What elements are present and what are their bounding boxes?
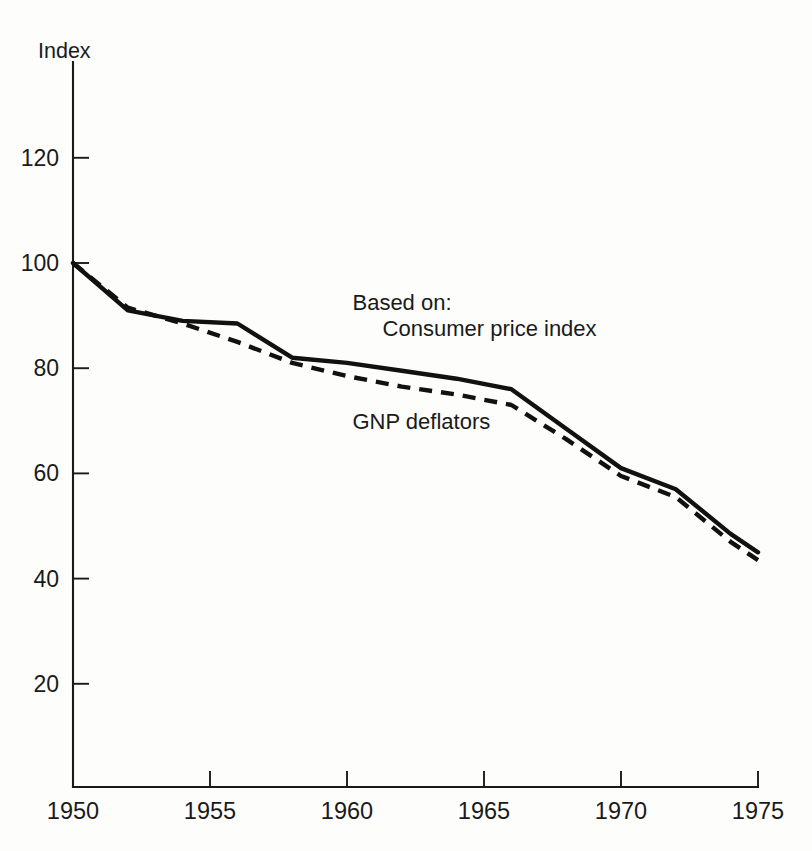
x-tick-label: 1955 [184,798,236,824]
y-tick-label: 60 [33,460,59,486]
chart-annotations: Based on:Consumer price indexGNP deflato… [352,290,596,433]
y-axis-tick-labels: 20406080100120 [21,145,59,697]
x-tick-label: 1970 [595,798,647,824]
x-axis-ticks [73,771,758,787]
y-tick-label: 120 [21,145,59,171]
x-tick-label: 1950 [47,798,99,824]
x-tick-label: 1975 [732,798,784,824]
chart-figure: 20406080100120 195019551960196519701975 … [0,0,812,851]
y-axis-title: Index [38,39,91,63]
chart-canvas: 20406080100120 195019551960196519701975 … [0,0,812,851]
x-tick-label: 1960 [321,798,373,824]
y-tick-label: 20 [33,671,59,697]
y-tick-label: 40 [33,566,59,592]
x-tick-label: 1965 [458,798,510,824]
legend-solid-label: Consumer price index [383,316,597,341]
x-axis-tick-labels: 195019551960196519701975 [47,798,784,824]
y-tick-label: 100 [21,250,59,276]
y-tick-label: 80 [33,355,59,381]
legend-heading: Based on: [352,290,451,315]
y-axis-ticks [73,158,89,684]
legend-dashed-label: GNP deflators [352,409,490,434]
